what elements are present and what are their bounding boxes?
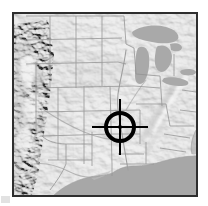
figure-root: [0, 0, 208, 206]
crosshair-center-dot: [118, 125, 122, 129]
crosshair-target-marker[interactable]: [92, 99, 148, 155]
crosshair-graphic: [92, 99, 148, 155]
map-frame: [12, 12, 198, 197]
corner-artifact: [1, 196, 10, 203]
